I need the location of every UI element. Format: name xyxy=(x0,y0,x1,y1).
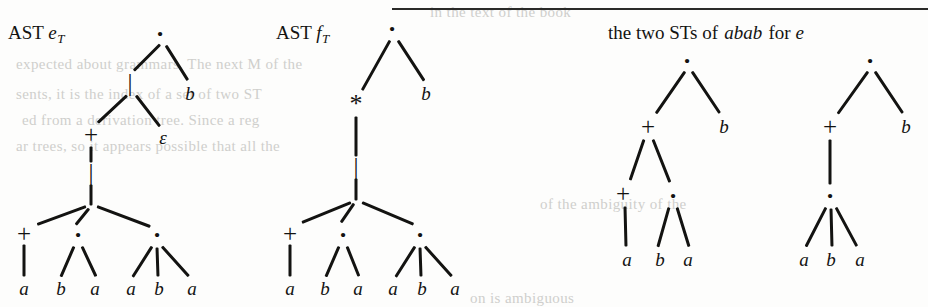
tree-edge xyxy=(90,184,93,205)
tree-node-bar: | xyxy=(127,70,132,95)
tree-edge xyxy=(81,245,98,276)
tree-node-dot: · xyxy=(826,183,835,209)
tree-node-b: b xyxy=(56,279,66,298)
tree-node-dot: · xyxy=(339,222,348,248)
tree-node-star: * xyxy=(350,91,363,117)
tree-node-plus: + xyxy=(84,122,98,147)
tree-edge xyxy=(419,247,423,276)
tree-node-a: a xyxy=(388,279,398,298)
tree-node-b: b xyxy=(421,84,431,103)
tree-edge xyxy=(830,208,834,246)
tree-st-2: ·+b·aba xyxy=(770,0,928,307)
tree-node-plus: + xyxy=(616,181,630,206)
tree-node-dot: · xyxy=(74,222,83,248)
tree-edge xyxy=(161,245,190,277)
tree-edge xyxy=(361,201,414,226)
tree-edge xyxy=(60,245,76,276)
tree-node-a: a xyxy=(19,279,29,298)
tree-edge xyxy=(135,94,161,127)
tree-ast-e-t: ·|b+ε|+··abaaba xyxy=(0,0,260,307)
tree-node-b: b xyxy=(185,84,195,103)
tree-edge xyxy=(805,206,828,246)
tree-edge xyxy=(96,205,150,228)
tree-edge xyxy=(346,245,361,276)
figure-page: in the text of the bookexpected about gr… xyxy=(0,0,928,307)
tree-node-b: b xyxy=(901,117,911,136)
tree-edge xyxy=(874,70,904,114)
tree-node-a: a xyxy=(187,279,197,298)
tree-node-dot: · xyxy=(866,48,875,74)
tree-node-a: a xyxy=(450,279,460,298)
tree-edge xyxy=(355,116,358,156)
tree-node-a: a xyxy=(683,250,693,269)
tree-edge xyxy=(156,247,160,276)
tree-edge xyxy=(655,70,686,114)
tree-node-dot: · xyxy=(156,21,165,47)
tree-node-plus: + xyxy=(823,114,837,139)
tree-node-dot: · xyxy=(153,222,162,248)
tree-edge xyxy=(835,206,859,246)
tree-node-b: b xyxy=(655,250,665,269)
tree-edge xyxy=(397,39,426,81)
tree-node-a: a xyxy=(855,250,865,269)
tree-edge xyxy=(23,244,26,276)
tree-node-a: a xyxy=(126,279,136,298)
tree-edge xyxy=(289,244,292,276)
tree-edge xyxy=(629,139,646,181)
tree-edge xyxy=(837,70,869,114)
tree-node-plus: + xyxy=(641,114,655,139)
tree-node-dot: · xyxy=(683,48,692,74)
tree-edge xyxy=(325,245,341,276)
tree-edge xyxy=(97,94,128,123)
tree-node-b: b xyxy=(154,279,164,298)
tree-node-b: b xyxy=(320,279,330,298)
tree-edge xyxy=(829,139,832,184)
tree-node-b: b xyxy=(826,250,836,269)
tree-edge xyxy=(355,178,358,200)
tree-node-dot: · xyxy=(388,16,397,42)
tree-node-a: a xyxy=(353,279,363,298)
tree-edge xyxy=(652,138,672,182)
tree-edge xyxy=(165,44,190,81)
tree-edge xyxy=(657,207,671,247)
tree-node-epsilon: ε xyxy=(159,128,167,147)
tree-edge xyxy=(424,245,453,277)
tree-edge xyxy=(676,207,691,247)
tree-edge xyxy=(395,245,417,277)
tree-edge xyxy=(624,206,628,246)
tree-edge xyxy=(132,245,154,277)
tree-node-a: a xyxy=(622,250,632,269)
tree-node-dot: · xyxy=(416,222,425,248)
tree-node-bar: | xyxy=(353,154,358,179)
tree-node-b: b xyxy=(719,117,729,136)
tree-node-a: a xyxy=(285,279,295,298)
tree-edge xyxy=(361,39,392,90)
tree-edge xyxy=(691,70,721,114)
tree-node-b: b xyxy=(417,279,427,298)
tree-node-bar: | xyxy=(88,160,93,185)
tree-node-dot: · xyxy=(669,183,678,209)
tree-node-a: a xyxy=(799,250,809,269)
tree-node-a: a xyxy=(90,279,100,298)
tree-node-plus: + xyxy=(17,221,31,246)
tree-ast-f-t: ·*b|+··abaaba xyxy=(270,0,530,307)
tree-node-plus: + xyxy=(283,221,297,246)
